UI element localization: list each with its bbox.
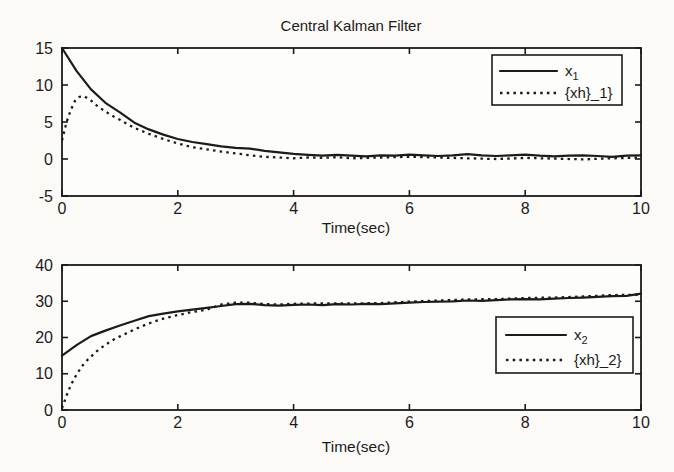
x-tick-label: 10 bbox=[632, 200, 650, 217]
xlabel-bottom: Time(sec) bbox=[322, 438, 390, 455]
y-tick-label: 40 bbox=[35, 257, 53, 274]
legend-label-xh2: {xh}_2} bbox=[574, 351, 622, 368]
subplot-top: 0246810-5051015 Time(sec) x1 {xh}_1} bbox=[35, 40, 650, 237]
y-tick-label: 30 bbox=[35, 293, 53, 310]
figure-canvas: Central Kalman Filter 0246810-5051015 Ti… bbox=[0, 0, 674, 472]
y-tick-label: 0 bbox=[44, 151, 53, 168]
legend-top: x1 {xh}_1} bbox=[492, 55, 622, 105]
x-tick-label: 8 bbox=[521, 414, 530, 431]
x-tick-label: 0 bbox=[58, 414, 67, 431]
subplot-bottom: 0246810010203040 Time(sec) x2 {xh}_2} bbox=[35, 257, 650, 456]
y-tick-label: 5 bbox=[44, 114, 53, 131]
legend-bottom: x2 {xh}_2} bbox=[496, 317, 633, 373]
x-tick-label: 8 bbox=[521, 200, 530, 217]
x-tick-label: 10 bbox=[632, 414, 650, 431]
kalman-filter-figure: Central Kalman Filter 0246810-5051015 Ti… bbox=[0, 0, 674, 472]
x-tick-label: 6 bbox=[405, 200, 414, 217]
legend-label-x1-subscript: 1 bbox=[573, 70, 579, 82]
y-tick-label: 15 bbox=[35, 40, 53, 57]
legend-label-x2-subscript: 2 bbox=[582, 334, 588, 346]
x-tick-label: 6 bbox=[405, 414, 414, 431]
x-tick-label: 4 bbox=[289, 414, 298, 431]
figure-title: Central Kalman Filter bbox=[281, 17, 422, 34]
y-tick-label: 20 bbox=[35, 329, 53, 346]
xlabel-top: Time(sec) bbox=[322, 219, 390, 236]
y-tick-label: 0 bbox=[44, 402, 53, 419]
x-tick-label: 0 bbox=[58, 200, 67, 217]
x-tick-label: 2 bbox=[173, 414, 182, 431]
legend-label-xh1: {xh}_1} bbox=[565, 84, 613, 101]
y-tick-label: 10 bbox=[35, 77, 53, 94]
x-tick-label: 2 bbox=[173, 200, 182, 217]
x-tick-label: 4 bbox=[289, 200, 298, 217]
y-tick-label: -5 bbox=[39, 188, 53, 205]
y-tick-label: 10 bbox=[35, 365, 53, 382]
